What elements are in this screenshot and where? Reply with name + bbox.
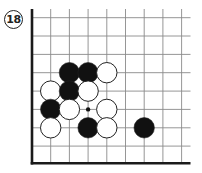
white-stone (78, 81, 98, 101)
board-markers (86, 107, 90, 111)
white-stone (97, 99, 117, 119)
point-marker-dot (86, 107, 90, 111)
black-stone (78, 118, 98, 138)
white-stone (41, 81, 61, 101)
white-stone (59, 99, 79, 119)
black-stone (78, 62, 98, 82)
white-stone (97, 118, 117, 138)
black-stone (41, 99, 61, 119)
black-stone (59, 62, 79, 82)
black-stone (134, 118, 154, 138)
black-stone (59, 81, 79, 101)
go-board-diagram (0, 0, 202, 173)
white-stone (97, 62, 117, 82)
white-stone (41, 118, 61, 138)
board-stones (41, 62, 155, 138)
